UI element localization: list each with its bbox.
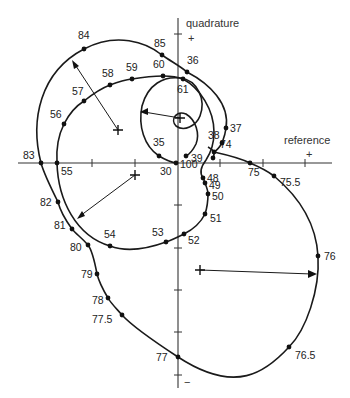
point-label: 75 <box>248 166 260 178</box>
data-point <box>95 272 100 277</box>
point-label: 85 <box>154 37 166 49</box>
point-label: 76 <box>324 250 336 262</box>
data-point <box>86 243 91 248</box>
data-point <box>62 122 67 127</box>
arrowhead-icon <box>77 211 85 219</box>
data-point <box>164 240 169 245</box>
frequency-points: 747575.57676.57777.578798081828384853655… <box>23 29 336 363</box>
vector-locus-diagram: quadrature + reference + − <box>0 0 350 398</box>
data-point <box>201 176 206 181</box>
point-label: 36 <box>187 54 199 66</box>
point-label: 59 <box>126 61 138 73</box>
radius-arrow <box>200 270 312 274</box>
data-point <box>224 126 229 131</box>
inner-locus-curve <box>141 78 202 163</box>
point-label: 57 <box>72 85 84 97</box>
quadrature-plus: + <box>188 32 194 44</box>
point-label: 52 <box>188 234 200 246</box>
data-point <box>212 150 217 155</box>
diagram-canvas: quadrature + reference + − <box>0 0 350 398</box>
data-point <box>120 313 125 318</box>
point-label: 76.5 <box>295 349 316 361</box>
point-label: 56 <box>50 108 62 120</box>
data-point <box>181 77 186 82</box>
point-label: 81 <box>54 219 66 231</box>
data-point <box>174 161 179 166</box>
data-point <box>106 296 111 301</box>
data-point <box>82 47 87 52</box>
point-label: 75.5 <box>280 176 301 188</box>
point-label: 51 <box>210 212 222 224</box>
data-point <box>211 156 216 161</box>
point-label: 60 <box>153 58 165 70</box>
point-label: 35 <box>153 136 165 148</box>
point-label: 79 <box>81 268 93 280</box>
arrowhead-icon <box>72 60 79 69</box>
point-label: 53 <box>152 226 164 238</box>
point-label: 61 <box>177 83 189 95</box>
data-point <box>130 77 135 82</box>
data-point <box>56 200 61 205</box>
center-cross-icon <box>130 170 140 180</box>
data-point <box>108 83 113 88</box>
data-point <box>182 232 187 237</box>
data-point <box>39 161 44 166</box>
center-cross-icon <box>113 125 123 135</box>
point-label: 82 <box>40 196 52 208</box>
data-point <box>203 181 208 186</box>
data-point <box>82 99 87 104</box>
quadrature-label: quadrature <box>186 17 239 29</box>
data-point <box>176 355 181 360</box>
point-label: 100 <box>180 158 198 170</box>
point-label: 38 <box>208 129 220 141</box>
data-point <box>220 141 225 146</box>
data-point <box>287 345 292 350</box>
point-label: 77 <box>156 351 168 363</box>
reference-plus: + <box>306 148 312 160</box>
data-point <box>185 70 190 75</box>
radius-arrow <box>144 112 180 118</box>
data-point <box>70 227 75 232</box>
point-label: 80 <box>70 241 82 253</box>
data-point <box>108 244 113 249</box>
point-label: 78 <box>92 294 104 306</box>
data-point <box>203 212 208 217</box>
reference-label: reference <box>284 134 330 146</box>
point-label: 30 <box>160 165 172 177</box>
point-label: 58 <box>102 67 114 79</box>
quadrature-minus: − <box>184 376 190 388</box>
radius-arrow <box>80 175 135 216</box>
data-point <box>157 154 162 159</box>
data-point <box>161 74 166 79</box>
point-label: 54 <box>104 228 116 240</box>
point-label: 55 <box>61 165 73 177</box>
data-point <box>272 174 277 179</box>
data-point <box>55 161 60 166</box>
point-label: 50 <box>212 190 224 202</box>
data-point <box>316 254 321 259</box>
arrowhead-icon <box>308 270 317 278</box>
point-label: 83 <box>23 149 35 161</box>
point-label: 37 <box>230 122 242 134</box>
point-label: 84 <box>78 29 90 41</box>
data-point <box>248 161 253 166</box>
data-point <box>160 53 165 58</box>
center-cross-icon <box>195 265 205 275</box>
data-point <box>206 192 211 197</box>
point-label: 77.5 <box>92 313 113 325</box>
